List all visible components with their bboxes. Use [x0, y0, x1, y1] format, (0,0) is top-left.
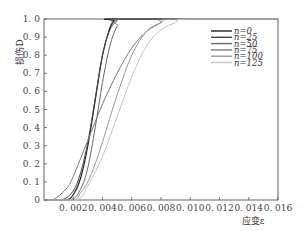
- y-tick-label: 0. 9: [23, 32, 40, 42]
- x-tick-label: 0. 010: [176, 203, 205, 213]
- y-tick-label: 0. 4: [23, 123, 40, 133]
- y-tick-label: 0. 8: [23, 50, 40, 60]
- y-tick-label: 0. 5: [23, 105, 40, 115]
- x-tick-label: 0. 012: [205, 203, 234, 213]
- y-axis-label: 损伤D: [14, 39, 25, 64]
- x-tick-label: 0. 014: [234, 203, 263, 213]
- y-tick-label: 0. 2: [23, 159, 40, 169]
- y-tick-label: 0. 7: [23, 68, 40, 78]
- legend-label: n=125: [234, 58, 263, 68]
- x-tick-label: 0. 006: [117, 203, 146, 213]
- y-axis: 00. 10. 20. 30. 40. 50. 60. 70. 80. 91. …: [23, 14, 47, 205]
- damage-strain-chart: 0. 0020. 0040. 0060. 0080. 0100. 0120. 0…: [0, 0, 307, 231]
- y-tick-label: 1. 0: [23, 14, 40, 24]
- legend: n=0n=25n=50n=75n=100n=125: [211, 26, 263, 68]
- x-tick-label: 0. 008: [147, 203, 176, 213]
- y-tick-label: 0: [34, 195, 40, 205]
- x-axis-label: 应变ε: [242, 215, 265, 226]
- x-tick-label: 0. 016: [264, 203, 293, 213]
- y-tick-label: 0. 3: [23, 141, 40, 151]
- x-tick-label: 0. 004: [88, 203, 117, 213]
- x-axis: 0. 0020. 0040. 0060. 0080. 0100. 0120. 0…: [59, 197, 293, 213]
- y-tick-label: 0. 6: [23, 86, 40, 96]
- y-tick-label: 0. 1: [23, 177, 40, 187]
- x-tick-label: 0. 002: [59, 203, 88, 213]
